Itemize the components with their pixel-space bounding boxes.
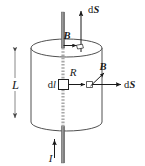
B-top-label: B bbox=[62, 30, 70, 41]
patch-top bbox=[77, 44, 84, 49]
cylinder-bottom-arc bbox=[31, 122, 102, 131]
wire-lower-segment bbox=[61, 126, 64, 163]
ampere-law-cylinder-diagram: L I dS B dl R bbox=[0, 0, 145, 166]
current-label: I bbox=[48, 152, 54, 164]
dl-label: dl bbox=[48, 79, 56, 90]
dl-l: l bbox=[53, 79, 56, 90]
dS-side-label: dS bbox=[124, 79, 136, 90]
patch-top-square bbox=[77, 44, 84, 49]
B-side-label: B bbox=[98, 61, 106, 72]
height-dimension-L: L bbox=[10, 52, 21, 118]
current-indicator: I bbox=[48, 139, 55, 164]
dS-side-S: S bbox=[130, 79, 136, 90]
cylinder-top-ellipse bbox=[31, 39, 102, 57]
physics-figure: L I dS B dl R bbox=[0, 0, 145, 166]
dS-top-label: dS bbox=[88, 4, 100, 15]
length-label: L bbox=[11, 78, 19, 92]
dl-square bbox=[59, 80, 69, 90]
dS-top-S: S bbox=[94, 4, 100, 15]
radius-label: R bbox=[69, 66, 77, 78]
